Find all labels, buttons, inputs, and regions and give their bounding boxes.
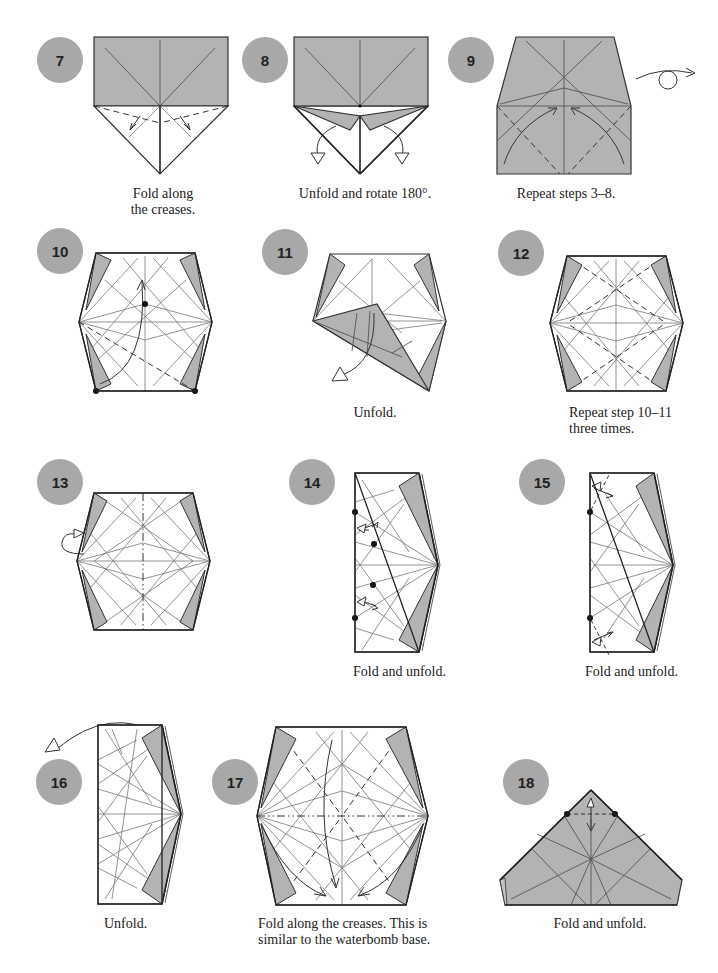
- step-number: 8: [261, 52, 269, 69]
- caption-line: similar to the waterbomb base.: [258, 932, 458, 948]
- caption-line: Unfold.: [340, 405, 410, 421]
- turn-over-icon: [632, 60, 712, 100]
- caption-line: Repeat steps 3–8.: [496, 186, 636, 202]
- step-18-diagram: [497, 789, 687, 909]
- step-8-badge: 8: [242, 37, 288, 83]
- mountain-fold-arrow: [56, 524, 96, 564]
- step-17-caption: Fold along the creases. This is similar …: [258, 916, 458, 948]
- caption-line: Unfold and rotate 180°.: [285, 186, 445, 202]
- step-12-diagram: [549, 255, 685, 395]
- step-7-diagram: [93, 36, 233, 176]
- step-13-diagram: [76, 492, 212, 632]
- step-16-diagram: [97, 724, 187, 909]
- step-number: 17: [227, 774, 244, 791]
- caption-line: Unfold.: [104, 916, 184, 932]
- step-10-badge: 10: [37, 228, 83, 274]
- step-17-diagram: [256, 726, 432, 908]
- step-15-caption: Fold and unfold.: [585, 664, 705, 680]
- step-7-caption: Fold along the creases.: [115, 186, 211, 218]
- step-11-caption: Unfold.: [340, 405, 410, 421]
- step-14-diagram: [354, 472, 444, 657]
- step-15-badge: 15: [519, 459, 565, 505]
- step-12-badge: 12: [498, 230, 544, 276]
- caption-line: three times.: [569, 421, 699, 437]
- step-number: 10: [52, 243, 69, 260]
- step-number: 7: [56, 52, 64, 69]
- step-8-diagram: [293, 36, 433, 181]
- step-9-badge: 9: [448, 37, 494, 83]
- step-11-badge: 11: [262, 229, 308, 275]
- step-7-badge: 7: [37, 37, 83, 83]
- step-8-caption: Unfold and rotate 180°.: [285, 186, 445, 202]
- caption-line: Fold and unfold.: [353, 664, 473, 680]
- step-number: 16: [51, 774, 68, 791]
- step-16-badge: 16: [36, 759, 82, 805]
- step-15-diagram: [589, 472, 679, 657]
- caption-line: the creases.: [115, 202, 211, 218]
- step-9-diagram: [496, 36, 636, 178]
- step-number: 13: [52, 474, 69, 491]
- caption-line: Fold along: [115, 186, 211, 202]
- caption-line: Fold along the creases. This is: [258, 916, 458, 932]
- caption-line: Fold and unfold.: [585, 664, 705, 680]
- step-10-diagram: [78, 252, 214, 394]
- step-number: 14: [304, 474, 321, 491]
- step-11-diagram: [312, 253, 450, 393]
- step-16-caption: Unfold.: [104, 916, 184, 932]
- step-12-caption: Repeat step 10–11 three times.: [569, 405, 699, 437]
- step-number: 11: [277, 244, 293, 261]
- step-number: 12: [513, 245, 530, 262]
- step-number: 15: [534, 474, 551, 491]
- step-14-caption: Fold and unfold.: [353, 664, 473, 680]
- step-14-badge: 14: [289, 459, 335, 505]
- caption-line: Repeat step 10–11: [569, 405, 699, 421]
- step-number: 9: [467, 52, 475, 69]
- step-number: 18: [518, 774, 535, 791]
- step-17-badge: 17: [212, 759, 258, 805]
- caption-line: Fold and unfold.: [540, 916, 660, 932]
- step-9-caption: Repeat steps 3–8.: [496, 186, 636, 202]
- step-18-caption: Fold and unfold.: [540, 916, 660, 932]
